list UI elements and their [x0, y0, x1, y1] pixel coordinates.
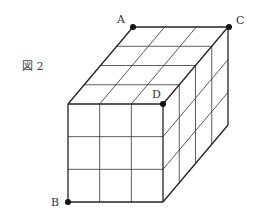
point-D	[160, 101, 166, 107]
point-A	[130, 24, 136, 30]
label-D: D	[152, 88, 161, 101]
point-C	[226, 24, 232, 30]
figure-label: 図 2	[22, 60, 44, 73]
label-A: A	[116, 13, 126, 26]
point-B	[65, 199, 71, 205]
cuboid-grid-lines	[68, 27, 228, 202]
cuboid-outline	[68, 27, 228, 202]
label-B: B	[51, 196, 59, 209]
label-C: C	[236, 14, 244, 27]
cuboid-diagram: 図 2 A C D B	[0, 0, 260, 216]
